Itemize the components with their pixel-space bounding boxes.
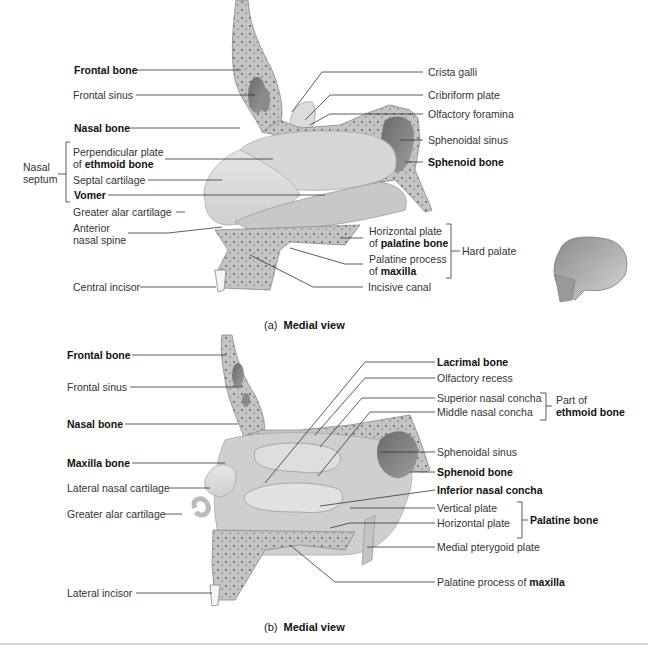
label-nasal-bone-a: Nasal bone bbox=[74, 122, 130, 134]
label-nasal-bone-b: Nasal bone bbox=[67, 418, 123, 430]
label-lacrimal-bone: Lacrimal bone bbox=[437, 356, 508, 368]
label-central-incisor: Central incisor bbox=[73, 281, 140, 293]
label-middle-nasal-concha: Middle nasal concha bbox=[437, 406, 533, 418]
label-sphenoid-bone-a: Sphenoid bone bbox=[428, 156, 504, 168]
label-greater-alar-cartilage-b: Greater alar cartilage bbox=[67, 508, 166, 520]
label-frontal-sinus-b: Frontal sinus bbox=[67, 381, 127, 393]
label-palatine-process-maxilla-a: Palatine process of maxilla bbox=[369, 253, 447, 277]
label-olfactory-recess: Olfactory recess bbox=[437, 372, 513, 384]
label-palatine-process-maxilla-b: Palatine process of maxilla bbox=[437, 576, 565, 588]
label-cribriform-plate: Cribriform plate bbox=[428, 89, 500, 101]
label-hard-palate: Hard palate bbox=[462, 245, 516, 257]
bottom-divider bbox=[0, 643, 648, 645]
label-olfactory-foramina: Olfactory foramina bbox=[428, 108, 514, 120]
caption-panel-a: (a) Medial view bbox=[264, 319, 345, 331]
label-frontal-bone-a: Frontal bone bbox=[74, 64, 138, 76]
label-sphenoidal-sinus-b: Sphenoidal sinus bbox=[437, 446, 517, 458]
label-horizontal-plate-b: Horizontal plate bbox=[437, 517, 510, 529]
label-medial-pterygoid-plate: Medial pterygoid plate bbox=[437, 541, 540, 553]
label-superior-nasal-concha: Superior nasal concha bbox=[437, 392, 541, 404]
caption-panel-b: (b) Medial view bbox=[264, 621, 345, 633]
label-lateral-nasal-cartilage: Lateral nasal cartilage bbox=[67, 482, 170, 494]
label-sphenoid-bone-b: Sphenoid bone bbox=[437, 466, 513, 478]
label-vomer: Vomer bbox=[74, 189, 106, 201]
label-nasal-septum: Nasal septum bbox=[23, 161, 57, 185]
label-sphenoidal-sinus-a: Sphenoidal sinus bbox=[428, 134, 508, 146]
label-part-of-ethmoid: Part of ethmoid bone bbox=[556, 394, 625, 418]
label-frontal-sinus-a: Frontal sinus bbox=[73, 89, 133, 101]
label-greater-alar-cartilage-a: Greater alar cartilage bbox=[73, 206, 172, 218]
label-septal-cartilage: Septal cartilage bbox=[73, 174, 145, 186]
label-perpendicular-plate: Perpendicular plate of ethmoid bone bbox=[73, 146, 163, 170]
label-vertical-plate: Vertical plate bbox=[437, 502, 497, 514]
label-palatine-bone: Palatine bone bbox=[530, 514, 598, 526]
label-horizontal-plate-palatine: Horizontal plate of palatine bone bbox=[369, 225, 448, 249]
label-inferior-nasal-concha: Inferior nasal concha bbox=[437, 484, 543, 496]
label-anterior-nasal-spine: Anterior nasal spine bbox=[73, 222, 126, 246]
label-incisive-canal: Incisive canal bbox=[368, 281, 431, 293]
label-crista-galli: Crista galli bbox=[428, 66, 477, 78]
label-lateral-incisor: Lateral incisor bbox=[67, 587, 132, 599]
label-frontal-bone-b: Frontal bone bbox=[67, 349, 131, 361]
label-maxilla-bone: Maxilla bone bbox=[67, 457, 130, 469]
skull-orientation-thumbnail bbox=[554, 237, 627, 302]
panel-b-illustration bbox=[194, 335, 430, 606]
